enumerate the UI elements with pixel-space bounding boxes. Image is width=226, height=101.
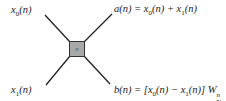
node-label: n	[75, 45, 79, 53]
output-line-b	[84, 56, 110, 84]
input-line-x1	[46, 56, 70, 85]
input-x0-label: x0(n)	[11, 4, 31, 20]
input-line-x0	[45, 15, 70, 42]
input-x1-label: x1(n)	[11, 84, 31, 100]
output-line-a	[84, 14, 112, 42]
butterfly-node: n	[69, 41, 85, 57]
output-b-equation: b(n) = [x0(n) − x1(n)] WnN	[114, 84, 222, 101]
output-a-equation: a(n) = x0(n) + x1(n)	[114, 3, 197, 19]
